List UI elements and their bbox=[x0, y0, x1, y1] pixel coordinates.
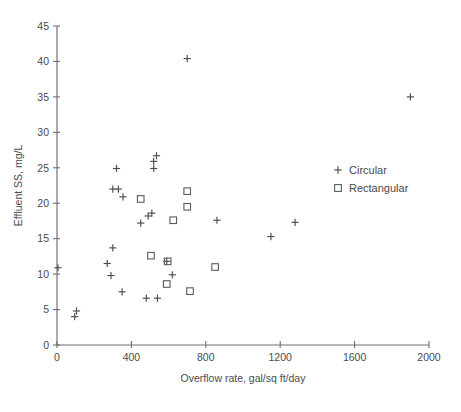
y-tick-label: 10 bbox=[37, 268, 49, 280]
data-point-rectangular bbox=[170, 217, 177, 224]
legend: CircularRectangular bbox=[334, 164, 408, 194]
plot-area: 0510152025303540450400800120016002000Ove… bbox=[0, 0, 461, 412]
data-point-circular bbox=[184, 55, 191, 62]
data-point-circular bbox=[104, 260, 111, 267]
y-tick-label: 0 bbox=[43, 339, 49, 351]
data-point-circular bbox=[213, 217, 220, 224]
y-tick-label: 5 bbox=[43, 303, 49, 315]
x-tick-label: 0 bbox=[54, 351, 60, 363]
legend-marker-rectangular bbox=[335, 185, 342, 192]
data-point-rectangular bbox=[148, 252, 155, 259]
data-point-circular bbox=[169, 271, 176, 278]
data-point-circular bbox=[115, 185, 122, 192]
data-point-rectangular bbox=[212, 264, 219, 271]
data-point-circular bbox=[54, 264, 61, 271]
x-tick-label: 800 bbox=[197, 351, 215, 363]
data-point-circular bbox=[291, 219, 298, 226]
y-axis-title: Effluent SS, mg/L bbox=[12, 145, 24, 227]
x-tick-label: 1600 bbox=[343, 351, 367, 363]
scatter-chart: 0510152025303540450400800120016002000Ove… bbox=[0, 0, 461, 412]
y-tick-label: 25 bbox=[37, 162, 49, 174]
legend-label-circular: Circular bbox=[349, 164, 387, 176]
data-point-circular bbox=[407, 93, 414, 100]
data-point-circular bbox=[267, 233, 274, 240]
y-tick-label: 35 bbox=[37, 91, 49, 103]
data-point-rectangular bbox=[184, 203, 191, 210]
data-point-circular bbox=[143, 295, 150, 302]
data-point-rectangular bbox=[137, 196, 144, 203]
data-point-rectangular bbox=[163, 281, 170, 288]
data-point-circular bbox=[150, 165, 157, 172]
data-point-circular bbox=[154, 295, 161, 302]
series-rectangular bbox=[137, 188, 218, 295]
x-tick-label: 2000 bbox=[417, 351, 441, 363]
data-point-circular bbox=[73, 307, 80, 314]
x-tick-label: 1200 bbox=[269, 351, 293, 363]
legend-label-rectangular: Rectangular bbox=[349, 182, 409, 194]
y-tick-label: 30 bbox=[37, 126, 49, 138]
data-point-circular bbox=[109, 244, 116, 251]
data-point-rectangular bbox=[187, 288, 194, 295]
y-tick-label: 45 bbox=[37, 20, 49, 32]
legend-marker-circular bbox=[334, 166, 342, 174]
y-tick-label: 15 bbox=[37, 232, 49, 244]
data-point-circular bbox=[137, 219, 144, 226]
x-tick-label: 400 bbox=[123, 351, 141, 363]
y-tick-label: 20 bbox=[37, 197, 49, 209]
y-tick-label: 40 bbox=[37, 55, 49, 67]
data-point-circular bbox=[107, 272, 114, 279]
data-point-circular bbox=[71, 313, 78, 320]
data-point-rectangular bbox=[184, 188, 191, 195]
data-point-circular bbox=[119, 193, 126, 200]
data-point-circular bbox=[113, 165, 120, 172]
x-axis-title: Overflow rate, gal/sq ft/day bbox=[181, 372, 307, 384]
data-point-circular bbox=[119, 288, 126, 295]
